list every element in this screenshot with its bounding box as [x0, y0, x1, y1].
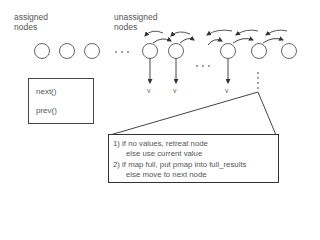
value-label-3: v: [225, 87, 229, 94]
unassigned-node-4: [252, 44, 267, 59]
unassigned-node-1: [143, 44, 158, 59]
value-label-1: v: [147, 87, 151, 94]
callout-line-2: else use current value: [113, 149, 278, 159]
legend-next: next(): [36, 87, 56, 96]
legend-prev: prev(): [36, 106, 57, 115]
callout-box: 1) if no values, retreat node else use c…: [108, 134, 279, 183]
value-label-2: v: [173, 87, 177, 94]
callout-line-1: 1) if no values, retreat node: [113, 139, 278, 149]
unassigned-node-5: [282, 44, 297, 59]
legend-box: next() prev(): [28, 78, 94, 124]
assigned-node-3: [85, 44, 100, 59]
callout-line-4: else move to next node: [113, 170, 278, 180]
assigned-node-2: [60, 44, 75, 59]
assigned-node-1: [35, 44, 50, 59]
unassigned-node-2: [169, 44, 184, 59]
callout-line-3: 2) if map full, put pmap into full_resul…: [113, 160, 278, 170]
unassigned-node-3: [221, 44, 236, 59]
